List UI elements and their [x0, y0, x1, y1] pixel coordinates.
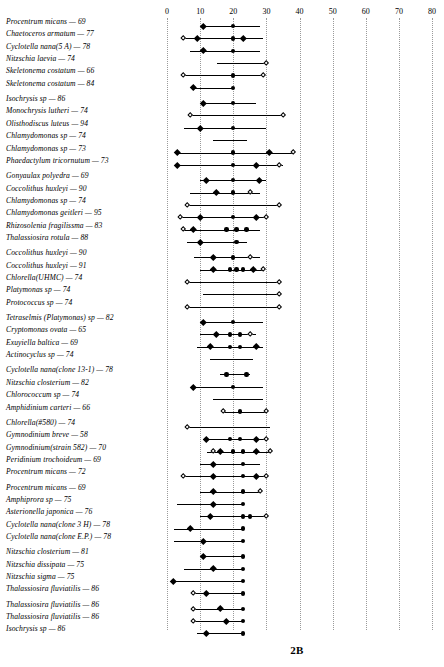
marker-filled-diamond [174, 162, 180, 168]
marker-filled-circle [231, 190, 235, 194]
data-row [150, 97, 444, 110]
species-label: Chlorella(UHMC) — 74 [6, 273, 150, 282]
data-row [150, 288, 444, 301]
marker-filled-circle [241, 567, 245, 571]
range-line [194, 88, 234, 89]
marker-filled-circle [238, 345, 242, 349]
marker-filled-diamond [253, 436, 259, 442]
marker-open-diamond [180, 473, 186, 479]
marker-filled-diamond [240, 35, 246, 41]
range-line [210, 359, 253, 360]
marker-filled-circle [231, 24, 235, 28]
data-row [150, 199, 444, 212]
data-row [150, 406, 444, 419]
range-line [187, 205, 280, 206]
species-label: Peridinium trochoideum — 69 [6, 455, 150, 464]
data-row [150, 20, 444, 33]
species-label: Procentrum micans — 69 [6, 17, 150, 26]
species-label: Phaedactylum tricornutum — 73 [6, 156, 150, 165]
species-label: Actinocyclus sp — 74 [6, 350, 150, 359]
data-row [150, 486, 444, 499]
marker-filled-circle [231, 320, 235, 324]
species-label: Amphiprora sp — 75 [6, 495, 150, 504]
marker-filled-diamond [204, 177, 210, 183]
species-label: Nitzschia closterium — 81 [6, 547, 150, 556]
marker-open-diamond [263, 408, 269, 414]
species-label: Chlamydomonas geitleri — 95 [6, 208, 150, 217]
x-tick-label-80: 80 [428, 7, 436, 16]
data-row [150, 109, 444, 122]
marker-filled-diamond [253, 448, 259, 454]
marker-open-diamond [263, 473, 269, 479]
marker-filled-diamond [266, 149, 272, 155]
data-row [150, 510, 444, 523]
data-row [150, 251, 444, 264]
data-row [150, 134, 444, 147]
marker-filled-circle [231, 178, 235, 182]
marker-filled-circle [238, 409, 242, 413]
marker-filled-circle [241, 526, 245, 530]
marker-open-diamond [187, 112, 193, 118]
species-label: Cyclotella nana(clone 3 H) — 78 [6, 520, 150, 529]
figure-caption: 2B [150, 644, 444, 656]
marker-filled-circle [224, 372, 228, 376]
marker-filled-circle [241, 591, 245, 595]
data-row [150, 587, 444, 600]
marker-filled-circle [231, 449, 235, 453]
marker-filled-circle [231, 150, 235, 154]
range-line [194, 621, 244, 622]
range-line [174, 581, 244, 582]
marker-open-diamond [180, 35, 186, 41]
species-label: Chlamydomonas sp — 73 [6, 144, 150, 153]
marker-filled-circle [228, 332, 232, 336]
species-label: Olisthodiscus luteus — 94 [6, 119, 150, 128]
range-line [213, 140, 246, 141]
marker-open-diamond [184, 424, 190, 430]
species-label: Asterionella japonica — 76 [6, 507, 150, 516]
marker-open-diamond [260, 72, 266, 78]
species-label: Gonyaulax polyedra — 69 [6, 171, 150, 180]
marker-open-diamond [247, 254, 253, 260]
species-label: Cryptomonas ovata — 65 [6, 325, 150, 334]
marker-filled-circle [241, 631, 245, 635]
data-row [150, 603, 444, 616]
marker-filled-circle [231, 255, 235, 259]
data-row [150, 32, 444, 45]
marker-filled-diamond [190, 85, 196, 91]
data-row [150, 393, 444, 406]
marker-filled-diamond [217, 448, 223, 454]
marker-filled-diamond [187, 525, 193, 531]
marker-filled-diamond [253, 214, 259, 220]
species-label: Monochrysis lutheri — 74 [6, 106, 150, 115]
marker-filled-circle [228, 437, 232, 441]
species-label: Cyclotella nana(5 A) — 78 [6, 42, 150, 51]
marker-filled-diamond [207, 344, 213, 350]
range-line [177, 165, 283, 166]
marker-filled-diamond [210, 473, 216, 479]
marker-filled-diamond [204, 590, 210, 596]
species-label: Rhizosolenia fragilissma — 83 [6, 221, 150, 230]
data-row [150, 236, 444, 249]
range-line [174, 541, 244, 542]
species-label: Coccolithus huxleyi — 90 [6, 184, 150, 193]
marker-filled-circle [248, 514, 252, 518]
marker-filled-diamond [210, 254, 216, 260]
marker-filled-circle [231, 215, 235, 219]
marker-filled-diamond [174, 149, 180, 155]
species-label: Gymnodinium(strain 582) — 70 [6, 443, 150, 452]
marker-filled-diamond [250, 266, 256, 272]
marker-open-diamond [277, 162, 283, 168]
marker-filled-circle [241, 579, 245, 583]
marker-open-diamond [277, 202, 283, 208]
x-tick-label-70: 70 [395, 7, 403, 16]
marker-open-diamond [184, 202, 190, 208]
marker-filled-circle [241, 449, 245, 453]
species-label: Nitzschia laevia — 74 [6, 54, 150, 63]
data-row [150, 69, 444, 82]
marker-open-diamond [277, 291, 283, 297]
data-row [150, 421, 444, 434]
marker-open-diamond [184, 279, 190, 285]
marker-filled-diamond [197, 239, 203, 245]
data-row [150, 470, 444, 483]
range-line [184, 75, 264, 76]
